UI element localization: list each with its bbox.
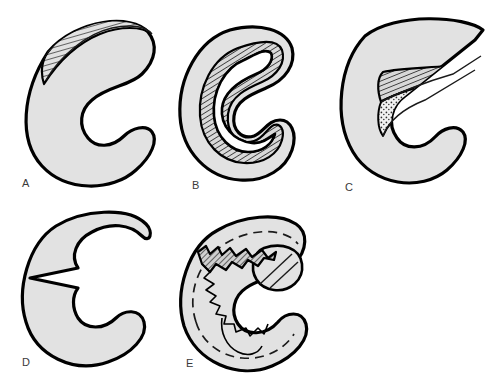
panel-d: D bbox=[8, 198, 178, 378]
panel-a: A bbox=[0, 0, 178, 200]
panel-a-illustration bbox=[0, 0, 178, 200]
panel-e-illustration bbox=[160, 200, 340, 379]
meniscus-body-a bbox=[26, 21, 154, 186]
panel-label-e: E bbox=[186, 358, 194, 369]
meniscus-body-e bbox=[181, 217, 307, 371]
panel-b: B bbox=[168, 8, 328, 200]
panel-label-d: D bbox=[22, 357, 30, 368]
panel-c-illustration bbox=[325, 6, 488, 202]
panel-label-a: A bbox=[22, 178, 30, 189]
panel-d-illustration bbox=[8, 198, 178, 378]
panel-label-b: B bbox=[192, 180, 200, 191]
panel-label-c: C bbox=[345, 182, 353, 193]
meniscus-body-c bbox=[341, 19, 483, 183]
panel-e: E bbox=[160, 200, 340, 379]
panel-c: C bbox=[325, 6, 488, 202]
meniscal-tear-figure: A B bbox=[0, 0, 488, 379]
meniscus-body-d bbox=[23, 212, 151, 366]
panel-b-illustration bbox=[168, 8, 328, 200]
